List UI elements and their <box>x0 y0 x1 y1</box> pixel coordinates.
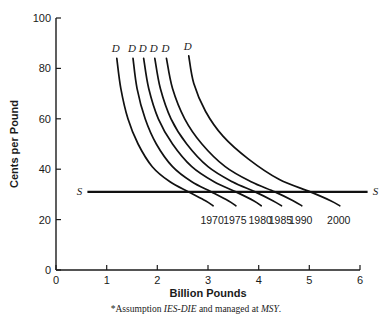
y-axis-title: Cents per Pound <box>8 100 20 188</box>
footnote: *Assumption IES-DIE and managed at MSY. <box>111 304 281 314</box>
y-tick-label-40: 40 <box>39 163 51 175</box>
year-label-2000: 2000 <box>327 214 351 226</box>
demand-label-1970: D <box>111 42 120 54</box>
x-tick-label-3: 3 <box>205 274 211 286</box>
x-tick-label-6: 6 <box>357 274 363 286</box>
year-label-1970: 1970 <box>200 214 224 226</box>
x-tick-label-5: 5 <box>306 274 312 286</box>
y-axis-ticks <box>56 18 61 270</box>
x-tick-label-0: 0 <box>53 274 59 286</box>
supply-label-left: S <box>77 185 83 197</box>
demand-labels-group: DDDDDD <box>111 40 192 55</box>
year-label-1975: 1975 <box>223 214 247 226</box>
supply-demand-chart: 0 20 40 60 80 100 0 1 2 3 4 5 6 Billion … <box>0 0 383 321</box>
x-tick-label-4: 4 <box>256 274 262 286</box>
x-axis-ticks <box>56 265 360 270</box>
demand-label-1975: D <box>127 42 136 54</box>
demand-label-2000: D <box>183 40 192 52</box>
y-tick-label-0: 0 <box>45 264 51 276</box>
supply-label-right: S <box>373 185 379 197</box>
demand-curves-group <box>117 56 340 206</box>
demand-label-1985: D <box>149 42 158 54</box>
demand-label-1980: D <box>138 42 147 54</box>
y-tick-label-100: 100 <box>33 12 51 24</box>
x-axis-title: Billion Pounds <box>170 287 247 299</box>
demand-curve-2000 <box>189 56 340 206</box>
y-tick-label-60: 60 <box>39 113 51 125</box>
x-tick-label-1: 1 <box>104 274 110 286</box>
demand-curve-1980 <box>144 58 262 205</box>
x-tick-label-2: 2 <box>154 274 160 286</box>
chart-figure: 0 20 40 60 80 100 0 1 2 3 4 5 6 Billion … <box>0 0 383 321</box>
supply-curve-group: SS <box>77 185 379 197</box>
y-tick-label-20: 20 <box>39 214 51 226</box>
demand-label-1990: D <box>160 42 169 54</box>
y-tick-label-80: 80 <box>39 62 51 74</box>
year-label-1990: 1990 <box>289 214 313 226</box>
year-labels-group: 197019751980198519902000 <box>200 214 350 226</box>
